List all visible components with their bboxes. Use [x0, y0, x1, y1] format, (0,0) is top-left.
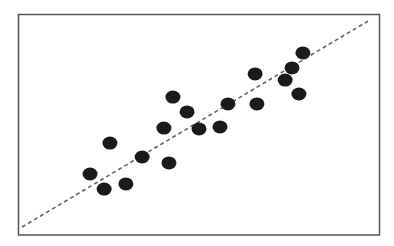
data-point — [156, 122, 171, 135]
data-point — [165, 91, 180, 104]
data-point — [135, 150, 150, 163]
scatter-chart — [0, 0, 394, 246]
data-point — [180, 105, 195, 118]
data-point — [118, 177, 133, 190]
data-point — [278, 74, 293, 87]
data-point — [295, 46, 310, 59]
data-point — [212, 120, 227, 133]
data-point — [97, 183, 112, 196]
data-point — [161, 156, 176, 169]
data-point — [248, 67, 263, 80]
data-point — [192, 122, 207, 135]
data-point — [220, 97, 235, 110]
data-point — [291, 88, 306, 101]
data-point — [249, 97, 264, 110]
data-point — [83, 168, 98, 181]
data-point — [285, 61, 300, 74]
data-point — [102, 137, 117, 150]
